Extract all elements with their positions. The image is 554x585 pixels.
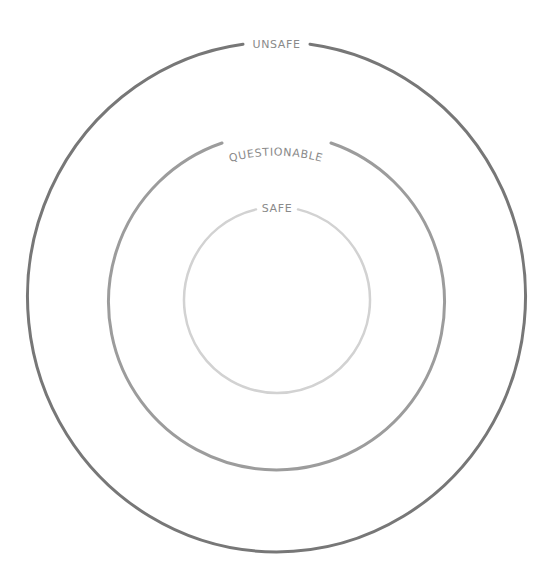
- ring-questionable: QUESTIONABLE: [109, 143, 445, 470]
- ring-safe: SAFE: [184, 202, 370, 393]
- ring-unsafe: UNSAFE: [28, 38, 526, 552]
- ring-questionable-label-text: QUESTIONABLE: [228, 146, 325, 165]
- concentric-safety-diagram: UNSAFE QUESTIONABLE SAFE: [0, 0, 554, 585]
- ring-safe-label: SAFE: [262, 202, 292, 215]
- ring-questionable-circle: [109, 143, 445, 470]
- ring-questionable-label: QUESTIONABLE: [228, 146, 325, 165]
- ring-unsafe-circle: [28, 44, 526, 552]
- ring-unsafe-label: UNSAFE: [253, 38, 301, 51]
- ring-safe-circle: [184, 209, 370, 393]
